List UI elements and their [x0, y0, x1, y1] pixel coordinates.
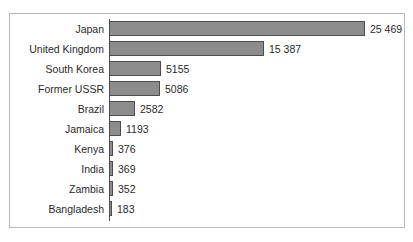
bar-value-label: 376 [118, 139, 136, 159]
bar [109, 141, 113, 156]
bar-row: Kenya376 [10, 139, 404, 159]
bar-row: Zambia352 [10, 179, 404, 199]
category-label: Zambia [10, 179, 104, 199]
bar [109, 121, 121, 136]
category-label: United Kingdom [10, 39, 104, 59]
bar-value-label: 15 387 [269, 39, 301, 59]
bar [109, 81, 160, 96]
bar-value-label: 352 [118, 179, 136, 199]
bar [109, 201, 112, 216]
bar [109, 41, 264, 56]
category-label: Japan [10, 19, 104, 39]
bar-value-label: 1193 [126, 119, 149, 139]
bar-value-label: 5086 [165, 79, 188, 99]
bar-row: Former USSR5086 [10, 79, 404, 99]
category-label: Jamaica [10, 119, 104, 139]
bar [109, 101, 135, 116]
bar-value-label: 25 469 [370, 19, 402, 39]
bar-row: United Kingdom15 387 [10, 39, 404, 59]
category-label: Kenya [10, 139, 104, 159]
bar [109, 21, 365, 36]
bar-value-label: 183 [117, 199, 135, 219]
bar-row: Jamaica1193 [10, 119, 404, 139]
category-label: Brazil [10, 99, 104, 119]
bar-value-label: 369 [118, 159, 136, 179]
bar [109, 61, 161, 76]
bar-chart-plot: Japan25 469United Kingdom15 387South Kor… [10, 14, 404, 227]
bar-row: Japan25 469 [10, 19, 404, 39]
chart-frame: Japan25 469United Kingdom15 387South Kor… [9, 13, 405, 228]
bar [109, 161, 113, 176]
bar-value-label: 5155 [166, 59, 189, 79]
category-label: South Korea [10, 59, 104, 79]
category-label: Former USSR [10, 79, 104, 99]
bar-row: India369 [10, 159, 404, 179]
category-label: Bangladesh [10, 199, 104, 219]
bar-value-label: 2582 [140, 99, 163, 119]
bar [109, 181, 113, 196]
bar-row: South Korea5155 [10, 59, 404, 79]
bar-row: Bangladesh183 [10, 199, 404, 219]
bar-row: Brazil2582 [10, 99, 404, 119]
category-label: India [10, 159, 104, 179]
